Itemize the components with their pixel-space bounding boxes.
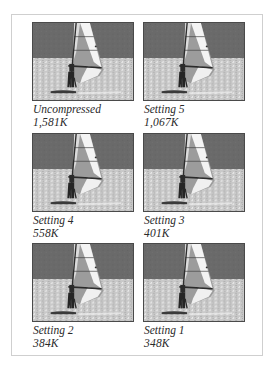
panel-uncompressed: Uncompressed 1,581K (32, 22, 134, 128)
panel-label: Setting 5 (144, 103, 245, 116)
file-size: 1,581K (33, 116, 134, 129)
panel-setting-5: Setting 5 1,067K (143, 22, 245, 128)
panel-label: Setting 3 (144, 214, 245, 227)
panel-label: Setting 4 (33, 214, 134, 227)
windsurfer-photo (32, 243, 134, 322)
panel-label: Setting 2 (33, 324, 134, 337)
panel-caption: Setting 2 384K (32, 324, 134, 349)
panel-label: Setting 1 (144, 324, 245, 337)
file-size: 1,067K (144, 116, 245, 129)
windsurfer-photo (32, 133, 134, 212)
panel-setting-1: Setting 1 348K (143, 243, 245, 349)
windsurfer-photo (143, 133, 245, 212)
panel-setting-4: Setting 4 558K (32, 133, 134, 239)
file-size: 384K (33, 337, 134, 350)
panel-setting-3: Setting 3 401K (143, 133, 245, 239)
file-size: 348K (144, 337, 245, 350)
panel-caption: Setting 3 401K (143, 214, 245, 239)
panel-caption: Setting 5 1,067K (143, 103, 245, 128)
file-size: 401K (144, 227, 245, 240)
panel-label: Uncompressed (33, 103, 134, 116)
windsurfer-photo (143, 22, 245, 101)
panel-setting-2: Setting 2 384K (32, 243, 134, 349)
panel-caption: Setting 4 558K (32, 214, 134, 239)
windsurfer-photo (143, 243, 245, 322)
panel-caption: Uncompressed 1,581K (32, 103, 134, 128)
panel-caption: Setting 1 348K (143, 324, 245, 349)
file-size: 558K (33, 227, 134, 240)
windsurfer-photo (32, 22, 134, 101)
